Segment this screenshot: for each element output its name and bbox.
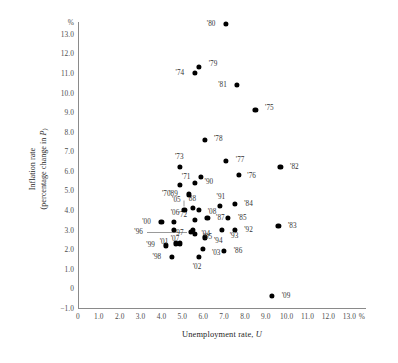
data-point-label: '79 (209, 60, 218, 68)
data-point (236, 172, 241, 177)
data-point-label: '87 (216, 214, 225, 222)
data-point-label: '83 (288, 222, 297, 230)
y-axis-title-text: Inflation rate (percentage change in P) (27, 129, 51, 210)
data-point (205, 215, 210, 220)
y-tick-label: 1.0 (64, 264, 74, 273)
data-point-label: '93 (230, 232, 239, 240)
data-point-label: '98 (153, 253, 162, 261)
y-tick-label: 13.0 (61, 29, 74, 38)
y-tick-label: 3.0 (64, 225, 74, 234)
data-point-label: '96 (134, 228, 143, 236)
x-tick-label: 8.0 (240, 312, 250, 321)
y-tick-label: 9.0 (64, 108, 74, 117)
data-point (217, 204, 222, 209)
data-point (192, 180, 197, 185)
y-tick-label: 5.0 (64, 186, 74, 195)
data-point (196, 207, 201, 212)
data-point (232, 202, 237, 207)
y-axis-title-line1: Inflation rate (28, 148, 37, 191)
data-point (201, 247, 206, 252)
x-tick-label: 6.0 (198, 312, 208, 321)
label-leader-line (184, 201, 185, 207)
y-tick-label: 8.0 (64, 127, 74, 136)
data-point (192, 70, 197, 75)
data-point-label: '75 (265, 104, 274, 112)
x-tick-label: 0 (76, 312, 80, 321)
x-tick-label: 3.0 (136, 312, 146, 321)
data-point (196, 254, 201, 259)
data-point-label: '76 (247, 172, 256, 180)
data-point (190, 206, 195, 211)
data-point (226, 215, 231, 220)
data-point (171, 219, 176, 224)
x-tick-label: 13.0 (343, 312, 356, 321)
data-point-label: '90 (205, 178, 214, 186)
data-point-label: '06 (171, 209, 180, 217)
data-point-label: '81 (218, 81, 227, 89)
data-point (221, 249, 226, 254)
data-point-label: '73 (175, 153, 184, 161)
x-tick-label: 7.0 (219, 312, 229, 321)
data-point-label: '02 (193, 263, 202, 271)
data-point-label: '85 (238, 214, 247, 222)
y-tick-label: 7.0 (64, 147, 74, 156)
x-axis-line (78, 308, 366, 309)
data-point (203, 137, 208, 142)
x-tick-label: 2.0 (115, 312, 125, 321)
plot-area: '70'71'72'73'74'75'76'77'78'79'80'81'82'… (78, 22, 366, 308)
x-tick-label: 4.0 (157, 312, 167, 321)
y-tick-label: 0 (70, 284, 74, 293)
y-tick-label: 6.0 (64, 166, 74, 175)
data-point-label: '92 (244, 226, 253, 234)
data-point (253, 108, 258, 113)
data-point-label: '09 (282, 292, 291, 300)
data-point-label: '78 (214, 135, 223, 143)
data-point (159, 219, 164, 224)
data-point-label: '05 (172, 196, 181, 204)
data-point (178, 182, 183, 187)
data-point (169, 254, 174, 259)
data-point-label: '07 (171, 235, 180, 243)
x-tick-label: 10.0 (280, 312, 293, 321)
y-tick-label: 2.0 (64, 245, 74, 254)
data-point (199, 174, 204, 179)
data-point-label: '99 (146, 241, 155, 249)
data-point-label: '08 (208, 208, 217, 216)
data-point-label: '01 (160, 238, 169, 246)
data-point (224, 158, 229, 163)
data-point (278, 164, 283, 169)
data-point-label: '71 (182, 173, 191, 181)
x-axis-unit-label: % (359, 312, 365, 321)
y-tick-label: 11.0 (61, 68, 74, 77)
x-tick-label: 5.0 (178, 312, 188, 321)
data-point (224, 21, 229, 26)
x-tick-label: 9.0 (261, 312, 271, 321)
data-point-label: '82 (290, 163, 299, 171)
data-point (219, 227, 224, 232)
y-axis-title: Inflation rate (percentage change in P) (26, 84, 52, 254)
y-tick-label: 10.0 (61, 88, 74, 97)
x-axis-title: Unemployment rate, U (78, 330, 366, 339)
x-tick-label: 12.0 (322, 312, 335, 321)
y-axis-title-line2: (percentage change in P) (39, 129, 48, 210)
data-point-label: '80 (207, 20, 216, 28)
data-point-label: '86 (234, 247, 243, 255)
x-axis-tick-labels: 01.02.03.04.05.06.07.08.09.010.011.012.0… (0, 312, 398, 326)
data-point (192, 217, 197, 222)
x-axis-title-text: Unemployment rate, U (182, 330, 262, 339)
data-point-label: '77 (236, 156, 245, 164)
data-point (234, 82, 239, 87)
data-point (178, 164, 183, 169)
x-tick-label: 1.0 (94, 312, 104, 321)
data-point-label: '94 (214, 237, 223, 245)
data-point-label: '84 (244, 200, 253, 208)
data-point (196, 64, 201, 69)
phillips-curve-scatter-figure: 13.012.011.010.09.08.07.06.05.04.03.02.0… (0, 0, 398, 363)
data-point-label: '04 (201, 230, 210, 238)
data-point-label: '03 (212, 249, 221, 257)
y-axis-unit-label: % (68, 17, 74, 26)
data-point-label: '00 (142, 218, 151, 226)
y-tick-label: 12.0 (61, 49, 74, 58)
data-point-label: '91 (217, 193, 226, 201)
data-point-label: '74 (176, 69, 185, 77)
